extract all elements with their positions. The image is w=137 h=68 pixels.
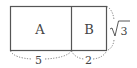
brace-b-left (72, 51, 85, 59)
rectangle-area-diagram: A B 5 2 3 (0, 0, 137, 68)
brace-a-right (45, 51, 72, 59)
brace-a-left (11, 51, 33, 59)
region-b-label: B (84, 22, 94, 37)
width-b-label: 2 (85, 54, 92, 67)
brace-height-bottom (107, 40, 114, 51)
region-a-label: A (34, 22, 45, 37)
width-a-label: 5 (35, 54, 42, 67)
brace-height-top (107, 7, 114, 21)
height-label: 3 (121, 25, 128, 38)
brace-b-right (93, 51, 107, 59)
